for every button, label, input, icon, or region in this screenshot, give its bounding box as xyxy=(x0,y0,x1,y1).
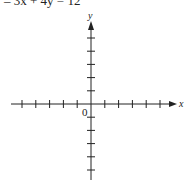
x-axis-label: x xyxy=(178,98,184,109)
coordinate-plane: x y 0 xyxy=(0,0,186,180)
x-axis-arrow xyxy=(169,101,177,107)
origin-label: 0 xyxy=(82,106,88,118)
y-axis-arrow xyxy=(88,21,94,30)
y-axis-label: y xyxy=(87,10,93,21)
